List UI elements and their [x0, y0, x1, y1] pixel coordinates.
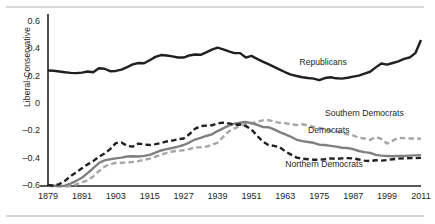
- series-label-northern-democrats: Northern Democrats: [285, 160, 362, 169]
- series-line-northern-democrats: [48, 123, 421, 186]
- series-label-democrats: Democrats: [308, 126, 350, 135]
- series-label-southern-democrats: Southern Democrats: [325, 109, 404, 118]
- series-label-republicans: Republicans: [299, 58, 346, 67]
- series-line-republicans: [48, 40, 421, 80]
